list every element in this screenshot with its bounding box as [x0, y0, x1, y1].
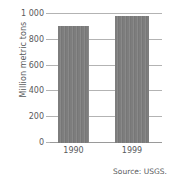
y-tick-label-200: 200 — [29, 112, 44, 121]
bar-1999 — [115, 16, 149, 143]
y-tick-label-400: 400 — [29, 86, 44, 95]
y-tick-label-0: 0 — [39, 138, 44, 147]
y-axis-title: Million metric tons — [19, 5, 28, 115]
tick-mark-0 — [46, 142, 50, 143]
x-tick-label-1999: 1999 — [110, 146, 154, 155]
x-tick-label-1990: 1990 — [52, 146, 95, 155]
y-tick-label-600: 600 — [29, 60, 44, 69]
tick-mark-1000 — [46, 13, 50, 14]
y-tick-label-1000: 1 000 — [21, 9, 44, 18]
plot-area: 0 200 400 600 800 1 000 1990 1999 — [50, 14, 162, 143]
tick-mark-400 — [46, 90, 50, 91]
bar-1990 — [58, 26, 89, 143]
gridline-1000: 1 000 — [50, 13, 162, 14]
bar-chart-figure: Million metric tons 0 200 400 600 800 1 … — [0, 0, 173, 185]
tick-mark-600 — [46, 65, 50, 66]
tick-mark-800 — [46, 39, 50, 40]
source-note: Source: USGS. — [113, 167, 167, 176]
tick-mark-200 — [46, 116, 50, 117]
y-tick-label-800: 800 — [29, 34, 44, 43]
